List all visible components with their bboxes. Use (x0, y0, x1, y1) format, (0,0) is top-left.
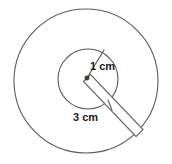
center-point (85, 76, 89, 80)
outer-radius-label: 3 cm (73, 111, 98, 123)
diagram-canvas: 1 cm 3 cm (0, 0, 172, 164)
geometry-diagram: 1 cm 3 cm (0, 0, 172, 164)
inner-radius-label: 1 cm (90, 60, 115, 72)
